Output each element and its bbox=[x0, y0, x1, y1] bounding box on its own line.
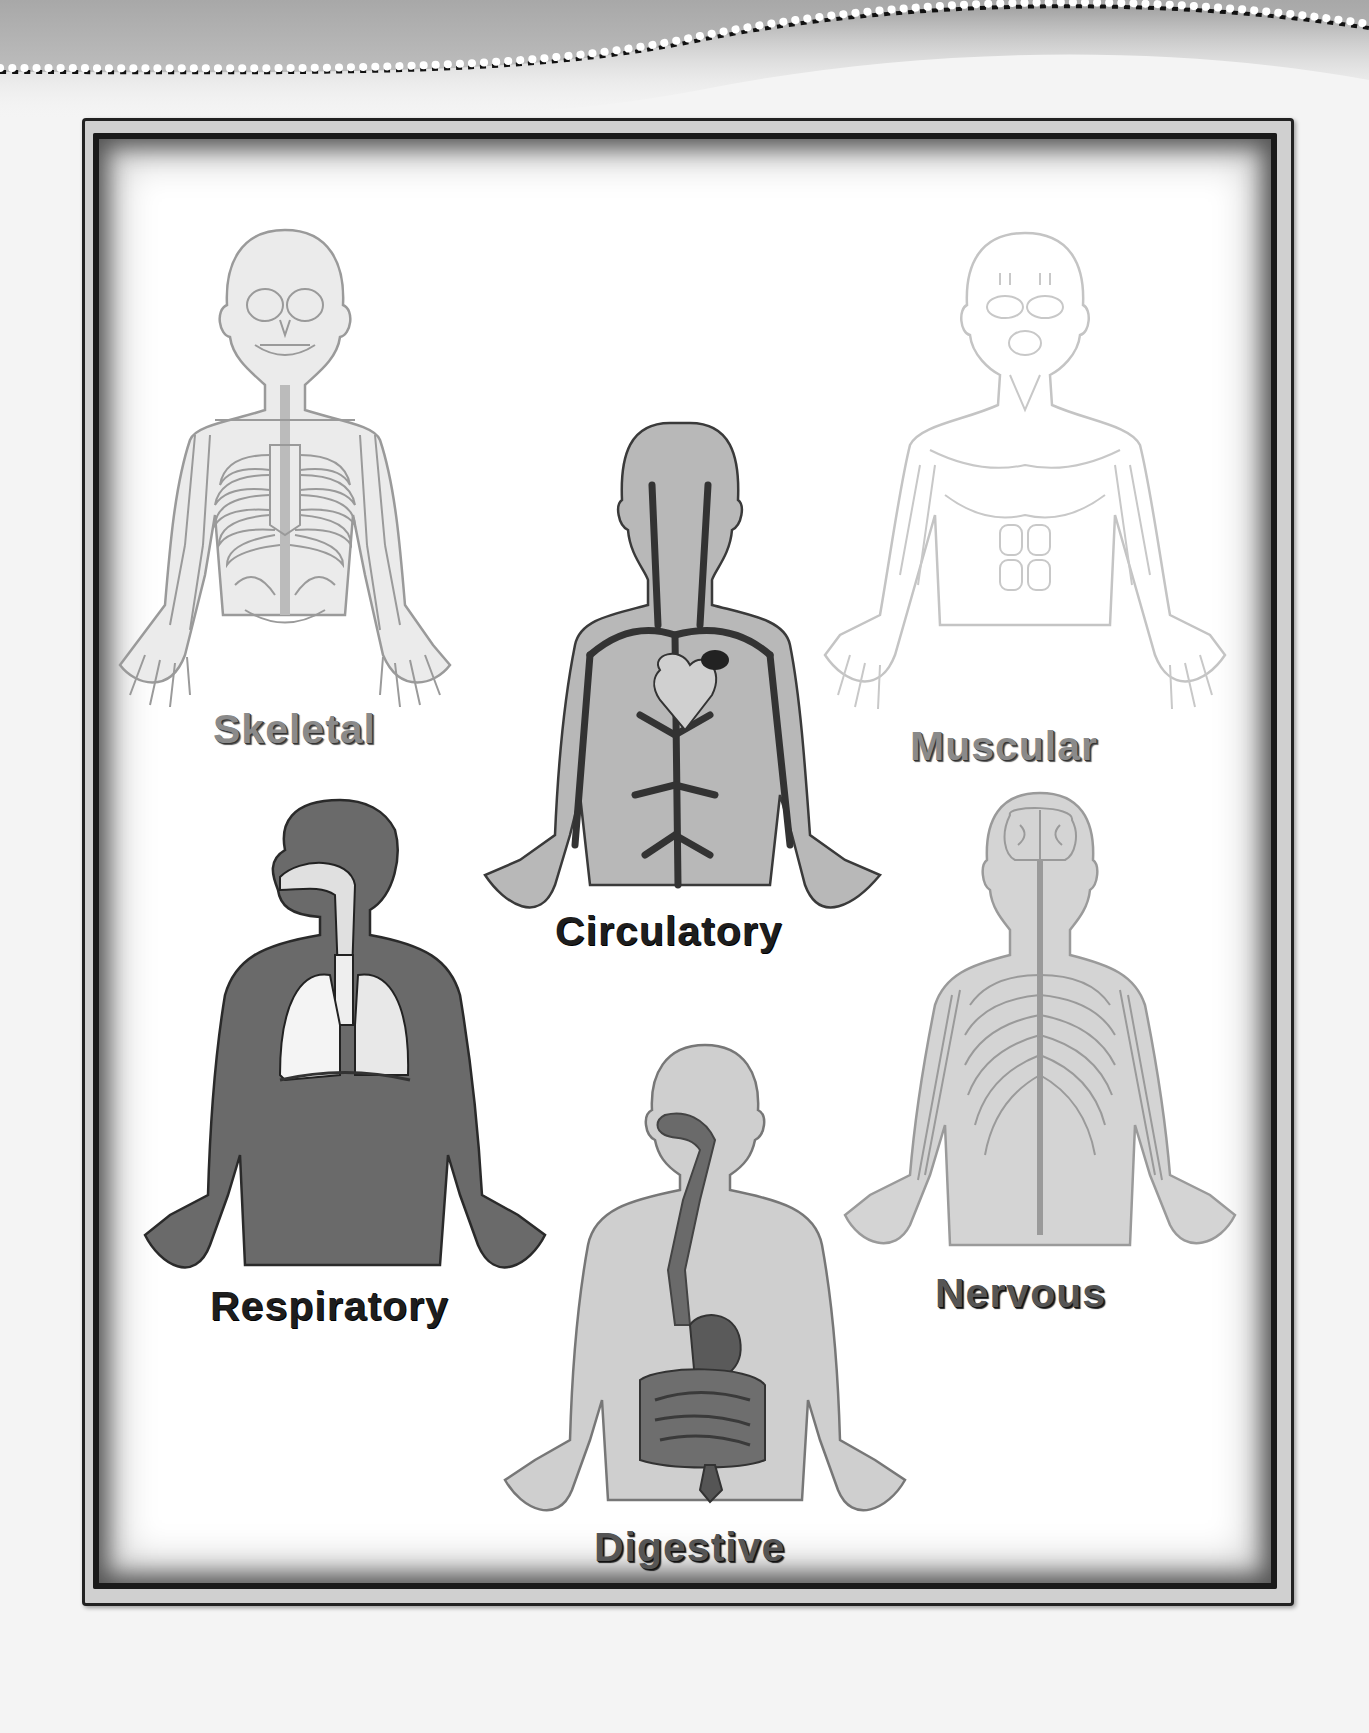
muscular-label: Muscular bbox=[910, 723, 1098, 770]
respiratory-label: Respiratory bbox=[210, 1283, 449, 1330]
skeletal-system-figure bbox=[115, 225, 455, 745]
digestive-label: Digestive bbox=[594, 1524, 785, 1571]
circulatory-label: Circulatory bbox=[555, 908, 782, 955]
respiratory-system-figure bbox=[140, 795, 550, 1305]
skeletal-label: Skeletal bbox=[213, 706, 376, 753]
nervous-label: Nervous bbox=[935, 1270, 1106, 1317]
digestive-system-figure bbox=[500, 1040, 910, 1540]
body-systems-diagram: Skeletal Muscular bbox=[0, 0, 1369, 1733]
